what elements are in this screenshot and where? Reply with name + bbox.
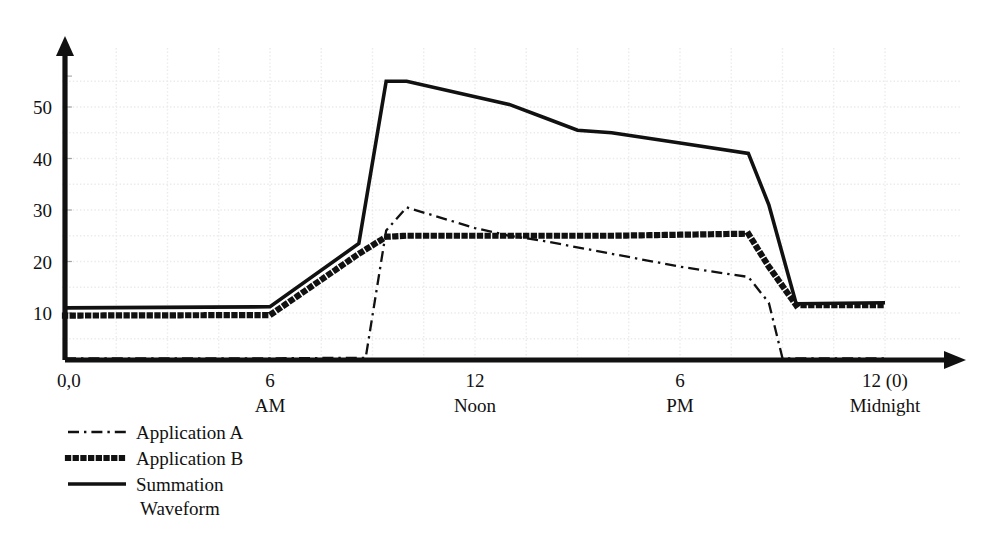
- chart-canvas: 0,06AM12Noon6PM12 (0)Midnight 1020304050…: [0, 0, 992, 548]
- legend-label: Summation: [136, 474, 224, 495]
- y-tick-label: 10: [33, 303, 52, 324]
- legend-label-line2: Waveform: [140, 498, 220, 519]
- x-tick-sublabel: AM: [255, 395, 286, 416]
- x-tick-label: 6: [265, 370, 275, 391]
- y-tick-label: 30: [33, 200, 52, 221]
- y-tick-label: 40: [33, 149, 52, 170]
- legend-label: Application A: [136, 422, 243, 443]
- y-tick-label: 50: [33, 97, 52, 118]
- x-tick-label: 12 (0): [862, 370, 908, 392]
- legend-label: Application B: [136, 448, 243, 469]
- x-tick-label: 0,0: [57, 370, 81, 391]
- x-tick-label: 6: [675, 370, 685, 391]
- x-tick-sublabel: Midnight: [850, 395, 921, 416]
- x-tick-label: 12: [466, 370, 485, 391]
- y-tick-label: 20: [33, 252, 52, 273]
- x-tick-sublabel: Noon: [454, 395, 497, 416]
- line-chart: 0,06AM12Noon6PM12 (0)Midnight 1020304050…: [0, 0, 992, 548]
- x-tick-sublabel: PM: [666, 395, 694, 416]
